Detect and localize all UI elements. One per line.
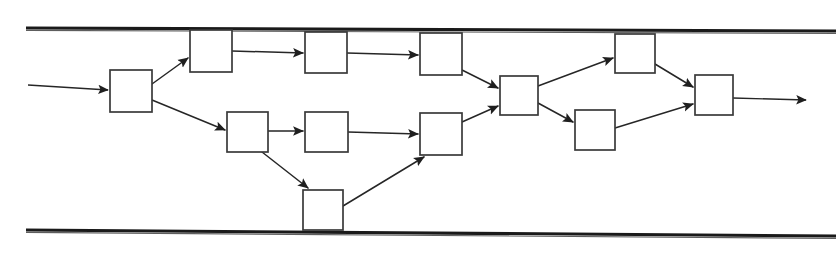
node-entry xyxy=(110,70,152,112)
node-upper-right-box xyxy=(615,34,655,73)
node-entry-box xyxy=(110,70,152,112)
node-mid-1 xyxy=(227,112,268,152)
node-mid-2-box xyxy=(305,112,348,152)
node-exit xyxy=(695,75,733,115)
node-top-2 xyxy=(305,32,347,73)
node-exit-box xyxy=(695,75,733,115)
node-mid-1-box xyxy=(227,112,268,152)
node-hub-box xyxy=(500,76,538,115)
node-mid-2 xyxy=(305,112,348,152)
node-bottom-detour xyxy=(303,190,343,230)
node-hub xyxy=(500,76,538,115)
node-top-3-box xyxy=(420,33,462,75)
node-top-1-box xyxy=(190,30,232,72)
node-mid-merge-box xyxy=(420,113,462,155)
node-top-1 xyxy=(190,30,232,72)
node-lower-right xyxy=(575,110,615,150)
node-top-3 xyxy=(420,33,462,75)
flow-diagram-figure xyxy=(0,0,840,264)
node-upper-right xyxy=(615,34,655,73)
node-top-2-box xyxy=(305,32,347,73)
node-lower-right-box xyxy=(575,110,615,150)
node-mid-merge xyxy=(420,113,462,155)
node-bottom-detour-box xyxy=(303,190,343,230)
flow-diagram-canvas xyxy=(0,0,840,264)
